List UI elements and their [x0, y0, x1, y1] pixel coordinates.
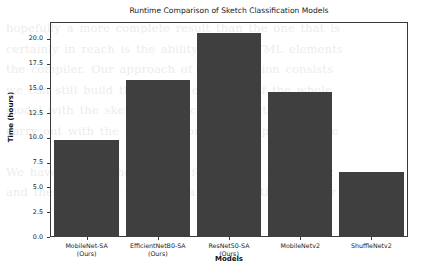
y-tick-mark [47, 113, 50, 114]
bar [339, 172, 403, 237]
y-tick-label: 12.5 [29, 109, 43, 117]
y-tick-mark [47, 39, 50, 40]
y-tick-label: 20.0 [29, 34, 43, 42]
y-tick-label: 2.5 [33, 208, 43, 216]
x-tick-mark [300, 237, 301, 240]
bar [197, 33, 261, 237]
y-tick-mark [47, 88, 50, 89]
y-tick-label: 0.0 [33, 233, 43, 241]
x-tick-label: ShuffleNetv2 [326, 242, 416, 250]
x-axis-label: Models [50, 255, 408, 263]
y-tick-mark [47, 237, 50, 238]
y-tick-mark [47, 163, 50, 164]
x-tick-mark [87, 237, 88, 240]
bar-chart-figure: Runtime Comparison of Sketch Classificat… [0, 0, 422, 278]
y-tick-label: 7.5 [33, 158, 43, 166]
y-tick-label: 10.0 [29, 133, 43, 141]
y-tick-label: 5.0 [33, 183, 43, 191]
x-tick-mark [158, 237, 159, 240]
y-tick-label: 15.0 [29, 84, 43, 92]
y-tick-mark [47, 212, 50, 213]
bar [54, 140, 118, 237]
y-axis-label: Time (hours) [7, 72, 15, 162]
y-tick-mark [47, 64, 50, 65]
y-tick-label: 17.5 [29, 59, 43, 67]
y-tick-mark [47, 187, 50, 188]
bar [268, 92, 332, 237]
chart-title: Runtime Comparison of Sketch Classificat… [50, 6, 408, 15]
x-tick-mark [229, 237, 230, 240]
y-tick-mark [47, 138, 50, 139]
x-tick-mark [371, 237, 372, 240]
bars-layer [51, 23, 407, 237]
bar [126, 80, 190, 237]
